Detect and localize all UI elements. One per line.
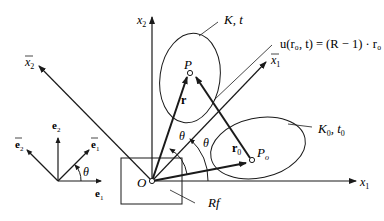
point-Po — [249, 157, 254, 162]
body-current-ellipse — [154, 29, 226, 126]
label-x2: x2 — [136, 13, 146, 29]
leader-equation — [214, 45, 272, 100]
leader-K0-t0 — [288, 124, 312, 127]
label-Rf: Rf — [207, 195, 222, 210]
label-x1bar: x1 — [270, 53, 280, 69]
rotation-diagram: x2 x1 x2 x1 O Rf P Po r r0 θ θ θ K, t K0… — [0, 0, 384, 221]
label-origin: O — [137, 175, 147, 190]
label-Po: Po — [256, 145, 269, 162]
label-body-current: K, t — [223, 12, 243, 27]
label-P: P — [183, 57, 192, 72]
label-x2bar: x2 — [24, 55, 34, 71]
label-theta-2: θ — [203, 136, 209, 150]
equation-displacement: u(r₀, t) = (R − 1) · r₀ — [280, 37, 381, 51]
label-e2: e2 — [52, 119, 61, 134]
x1bar-axis — [152, 62, 266, 181]
label-x1: x1 — [359, 175, 369, 191]
label-theta-basis: θ — [83, 165, 89, 179]
label-e1: e1 — [95, 187, 104, 202]
label-r: r — [181, 93, 187, 107]
basis-vectors — [27, 138, 101, 181]
label-theta-1: θ — [179, 129, 185, 143]
label-body-initial: K0, t0 — [317, 121, 345, 138]
leader-K-t — [199, 22, 218, 36]
label-e1bar: e1 — [91, 138, 100, 153]
label-e2bar: e2 — [15, 138, 24, 153]
origin-point — [149, 178, 154, 183]
